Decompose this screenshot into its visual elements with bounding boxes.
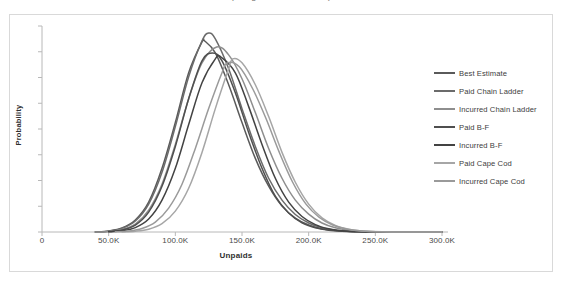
chart-legend: Best EstimatePaid Chain LadderIncurred C…: [434, 64, 552, 190]
legend-item[interactable]: Paid Cape Cod: [434, 154, 552, 172]
legend-color-swatch: [434, 126, 455, 128]
x-axis-tick-label: 0: [40, 236, 45, 245]
series-line-best-estimate: [95, 39, 442, 232]
legend-item[interactable]: Incurred Cape Cod: [434, 172, 552, 190]
legend-item-label: Paid B-F: [459, 123, 489, 132]
legend-color-swatch: [434, 72, 455, 74]
legend-item[interactable]: Best Estimate: [434, 64, 552, 82]
legend-item[interactable]: Paid Chain Ladder: [434, 82, 552, 100]
axis-layer: [38, 26, 448, 236]
chart-root: (using various methods) 050.0K100.0K150.…: [0, 0, 562, 289]
legend-item[interactable]: Incurred Chain Ladder: [434, 100, 552, 118]
legend-item-label: Paid Chain Ladder: [459, 87, 524, 96]
legend-item-label: Incurred Chain Ladder: [459, 105, 537, 114]
legend-color-swatch: [434, 180, 455, 182]
legend-item-label: Incurred Cape Cod: [459, 177, 525, 186]
x-axis-tick-label: 150.0K: [229, 236, 255, 245]
legend-item-label: Incurred B-F: [459, 141, 502, 150]
legend-item-label: Paid Cape Cod: [459, 159, 512, 168]
legend-item-label: Best Estimate: [459, 69, 507, 78]
legend-color-swatch: [434, 162, 455, 164]
legend-color-swatch: [434, 108, 455, 110]
series-line-incurred-cape-cod: [115, 62, 442, 232]
legend-item[interactable]: Incurred B-F: [434, 136, 552, 154]
x-axis-tick-label: 250.0K: [362, 236, 388, 245]
x-axis-tick-label: 300.0K: [429, 236, 455, 245]
x-axis-tick-label: 200.0K: [296, 236, 322, 245]
legend-color-swatch: [434, 144, 455, 146]
x-axis-tick-label: 50.0K: [98, 236, 119, 245]
curve-layer: [95, 33, 442, 232]
x-axis-tick-label: 100.0K: [162, 236, 188, 245]
x-axis-title: Unpaids: [220, 251, 253, 260]
y-axis-title: Probability: [14, 105, 23, 146]
legend-color-swatch: [434, 90, 455, 92]
legend-item[interactable]: Paid B-F: [434, 118, 552, 136]
series-line-paid-chain-ladder: [95, 33, 442, 232]
